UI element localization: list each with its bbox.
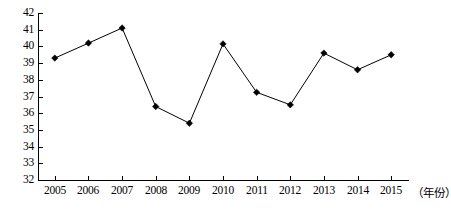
data-point-marker <box>119 25 125 31</box>
data-point-marker <box>253 89 259 95</box>
data-point-marker <box>52 55 58 61</box>
data-point-marker <box>85 40 91 46</box>
line-chart: 3233343536373839404142 20052006200720082… <box>0 0 451 221</box>
data-point-marker <box>354 67 360 73</box>
data-series-line <box>0 0 451 221</box>
data-point-marker <box>220 41 226 47</box>
data-point-marker <box>321 50 327 56</box>
data-point-marker <box>186 120 192 126</box>
data-point-marker <box>388 52 394 58</box>
data-point-marker <box>153 103 159 109</box>
data-point-marker <box>287 102 293 108</box>
